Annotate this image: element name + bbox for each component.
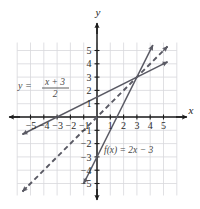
line-label-f-equation: f(x) = 2x − 3	[104, 145, 153, 156]
y-tick-label: −5	[81, 178, 92, 189]
y-tick-label: 2	[87, 85, 92, 96]
graph-figure: −5−4−3−2−112345−5−4−3−2−112345 x y y = x…	[0, 0, 200, 209]
x-axis-label: x	[188, 104, 194, 116]
coordinate-plane-svg: −5−4−3−2−112345−5−4−3−2−112345 x y y = x…	[0, 0, 200, 209]
x-tick-label: −2	[66, 120, 77, 131]
y-tick-label: 4	[87, 58, 92, 69]
y-tick-label: −3	[81, 152, 92, 163]
x-tick-label: −5	[26, 120, 37, 131]
x-tick-label: 3	[134, 120, 139, 131]
x-tick-label: 2	[121, 120, 126, 131]
figure-background	[0, 0, 200, 209]
y-tick-label: −2	[81, 138, 92, 149]
label-y-prefix: y =	[17, 80, 32, 91]
x-tick-label: −3	[52, 120, 63, 131]
x-tick-label: 1	[108, 120, 113, 131]
x-tick-label: 5	[161, 120, 166, 131]
y-tick-label: −4	[81, 165, 92, 176]
x-tick-label: 4	[148, 120, 153, 131]
y-tick-label: 1	[87, 98, 92, 109]
y-tick-label: 5	[87, 45, 92, 56]
label-y-denominator: 2	[53, 89, 58, 99]
y-axis-label: y	[95, 6, 101, 18]
label-y-numerator: x + 3	[44, 77, 65, 87]
x-tick-label: −4	[39, 120, 50, 131]
y-tick-label: −1	[81, 125, 92, 136]
y-tick-label: 3	[87, 72, 92, 83]
